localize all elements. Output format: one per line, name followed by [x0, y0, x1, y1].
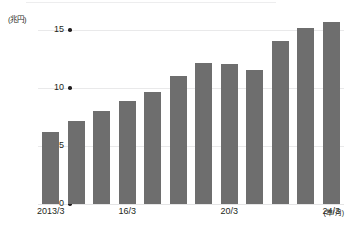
x-tick-label: 16/3: [118, 206, 136, 216]
bar: [221, 64, 238, 204]
x-axis-labels: (年/月) 2013/316/320/324/3: [38, 206, 344, 222]
bar: [272, 41, 289, 204]
top-divider: [26, 2, 276, 3]
bar: [323, 22, 340, 204]
gridline-0: [38, 204, 344, 205]
bar: [93, 111, 110, 204]
plot-area: 151050: [38, 22, 344, 204]
bar: [68, 121, 85, 204]
x-tick-label: 20/3: [220, 206, 238, 216]
y-axis-unit-label: (兆円): [8, 13, 26, 24]
x-tick-label: 2013/3: [37, 206, 65, 216]
x-tick-label: 24/3: [322, 206, 340, 216]
bar-series: [38, 22, 344, 204]
bar: [195, 63, 212, 204]
bar: [42, 132, 59, 204]
bar-chart-figure: (兆円) 151050 (年/月) 2013/316/320/324/3: [0, 0, 354, 232]
bar: [119, 101, 136, 204]
bar: [297, 28, 314, 204]
bar: [246, 70, 263, 204]
bar: [144, 92, 161, 204]
bar: [170, 76, 187, 204]
